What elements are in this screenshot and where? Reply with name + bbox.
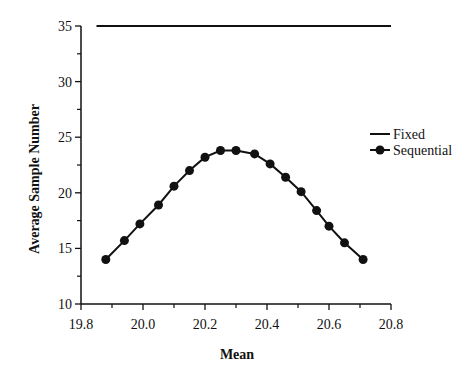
x-tick-label: 20.4 <box>255 317 280 332</box>
legend-label-sequential: Sequential <box>393 143 452 158</box>
y-tick-label: 15 <box>58 241 72 256</box>
y-tick-label: 25 <box>58 130 72 145</box>
data-point-sequential <box>250 149 259 158</box>
plot-series <box>97 26 392 264</box>
data-point-sequential <box>170 182 179 191</box>
series-line-sequential <box>106 151 363 260</box>
data-point-sequential <box>101 255 110 264</box>
chart-canvas: 10152025303519.820.020.220.420.620.8 Ave… <box>0 0 468 382</box>
y-tick-label: 10 <box>58 297 72 312</box>
legend-label-fixed: Fixed <box>393 127 425 142</box>
data-point-sequential <box>120 236 129 245</box>
axes: 10152025303519.820.020.220.420.620.8 <box>58 19 403 332</box>
x-tick-label: 19.8 <box>69 317 94 332</box>
data-point-sequential <box>281 173 290 182</box>
data-point-sequential <box>154 201 163 210</box>
data-point-sequential <box>216 146 225 155</box>
legend: Fixed Sequential <box>370 127 452 158</box>
legend-item-fixed: Fixed <box>370 127 425 142</box>
data-point-sequential <box>201 153 210 162</box>
x-tick-label: 20.0 <box>131 317 156 332</box>
x-axis-title: Mean <box>220 347 254 362</box>
data-point-sequential <box>340 238 349 247</box>
legend-item-sequential: Sequential <box>370 143 452 158</box>
legend-circle-marker-icon <box>376 146 385 155</box>
data-point-sequential <box>359 255 368 264</box>
data-point-sequential <box>232 146 241 155</box>
y-tick-label: 35 <box>58 19 72 34</box>
data-point-sequential <box>185 166 194 175</box>
x-tick-label: 20.8 <box>379 317 404 332</box>
data-point-sequential <box>266 159 275 168</box>
data-point-sequential <box>297 187 306 196</box>
data-point-sequential <box>312 206 321 215</box>
data-point-sequential <box>325 222 334 231</box>
y-tick-label: 20 <box>58 186 72 201</box>
y-axis-title-group: Average Sample Number <box>27 104 42 254</box>
y-axis-title: Average Sample Number <box>27 104 42 254</box>
data-point-sequential <box>135 219 144 228</box>
x-tick-label: 20.6 <box>317 317 342 332</box>
x-tick-label: 20.2 <box>193 317 218 332</box>
y-tick-label: 30 <box>58 75 72 90</box>
